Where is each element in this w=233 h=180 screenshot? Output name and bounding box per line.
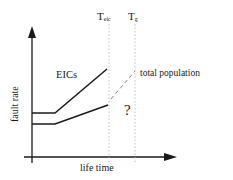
total-population-curve <box>32 105 108 124</box>
eics-label: EICs <box>56 69 77 80</box>
t-eic-label: Teic <box>97 10 111 22</box>
total-population-extrapolation <box>111 71 135 99</box>
x-axis-label: life time <box>80 162 114 173</box>
y-axis-arrow <box>28 26 36 38</box>
x-axis-arrow <box>164 153 177 161</box>
t-g-label: Tg <box>128 10 138 22</box>
total-population-label: total population <box>140 68 200 78</box>
fault-rate-diagram: Teic Tg EICs total population ? life tim… <box>0 0 233 180</box>
y-axis-label: fault rate <box>9 86 20 122</box>
uncertainty-mark: ? <box>124 102 131 118</box>
